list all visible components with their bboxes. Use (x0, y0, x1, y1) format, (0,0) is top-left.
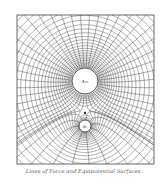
field-diagram: A₂₀B₅ (0, 0, 168, 184)
null-point-dot (84, 112, 86, 114)
charge-a-label: A₂₀ (81, 79, 89, 84)
charge-b-label: B₅ (82, 125, 88, 129)
figure-caption: Lines of Force and Equipotential Surface… (0, 168, 168, 174)
